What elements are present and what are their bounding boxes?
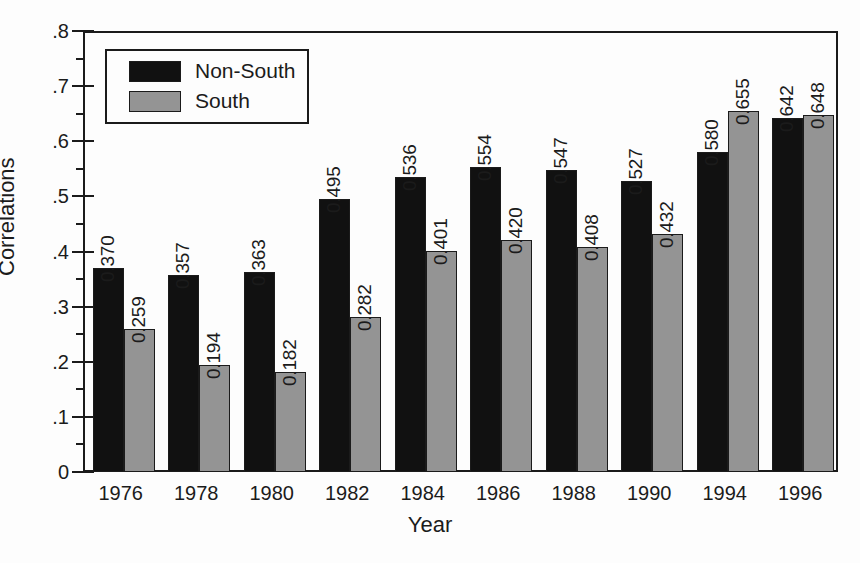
- bar-value-label: 0.432: [656, 201, 678, 248]
- bar-south-1990: [652, 234, 683, 472]
- bar-non-south-1976: [93, 268, 124, 472]
- legend-label-south: South: [195, 89, 250, 113]
- y-tick-minor: [76, 113, 83, 115]
- bar-value-label: 0.547: [550, 138, 572, 185]
- y-tick-minor: [76, 278, 83, 280]
- bar-value-label: 0.420: [505, 208, 527, 255]
- bar-value-label: 0.554: [474, 134, 496, 181]
- bar-south-1986: [501, 240, 532, 472]
- y-tick-major: [72, 361, 94, 363]
- x-tick-label-1996: 1996: [778, 482, 823, 505]
- bar-non-south-1994: [697, 152, 728, 472]
- legend: Non-South South: [105, 49, 309, 124]
- bar-value-label: 0.408: [581, 215, 603, 262]
- bar-non-south-1996: [772, 118, 803, 472]
- x-tick-label-1978: 1978: [174, 482, 219, 505]
- y-tick-minor: [76, 168, 83, 170]
- legend-item-non-south: Non-South: [129, 59, 295, 83]
- bar-south-1994: [728, 111, 759, 472]
- y-tick-major: [72, 251, 94, 253]
- y-tick-major: [72, 195, 94, 197]
- y-tick-label: .8: [52, 20, 69, 43]
- bar-value-label: 0.282: [354, 284, 376, 331]
- y-tick-minor: [76, 333, 83, 335]
- y-tick-label: .3: [52, 295, 69, 318]
- bar-chart: Correlations Year 0.1.2.3.4.5.6.7.8 0.37…: [0, 0, 860, 563]
- y-tick-major: [72, 140, 94, 142]
- x-tick-label-1976: 1976: [99, 482, 144, 505]
- y-tick-minor: [76, 58, 83, 60]
- bar-non-south-1988: [546, 170, 577, 472]
- bar-value-label: 0.363: [248, 239, 270, 286]
- y-tick-label: .1: [52, 405, 69, 428]
- bar-south-1982: [350, 317, 381, 472]
- bar-value-label: 0.655: [732, 78, 754, 125]
- x-tick-label-1990: 1990: [627, 482, 672, 505]
- y-tick-label: .5: [52, 185, 69, 208]
- bar-south-1988: [577, 247, 608, 472]
- bar-value-label: 0.527: [625, 149, 647, 196]
- bar-value-label: 0.259: [128, 297, 150, 344]
- bar-value-label: 0.401: [430, 218, 452, 265]
- bar-south-1980: [275, 372, 306, 472]
- legend-label-non-south: Non-South: [195, 59, 295, 83]
- bar-value-label: 0.536: [399, 144, 421, 191]
- y-axis-title: Correlations: [0, 157, 20, 276]
- y-tick-major: [72, 85, 94, 87]
- bar-value-label: 0.357: [172, 243, 194, 290]
- bar-value-label: 0.648: [807, 82, 829, 129]
- y-tick-label: .2: [52, 350, 69, 373]
- x-tick-label-1986: 1986: [476, 482, 521, 505]
- bar-non-south-1978: [168, 275, 199, 472]
- y-tick-minor: [76, 388, 83, 390]
- y-tick-label: .4: [52, 240, 69, 263]
- bar-south-1976: [124, 329, 155, 472]
- y-tick-major: [72, 471, 94, 473]
- x-tick-label-1984: 1984: [401, 482, 446, 505]
- bar-south-1996: [803, 115, 834, 472]
- bar-value-label: 0.580: [701, 120, 723, 167]
- y-tick-major: [72, 306, 94, 308]
- x-tick-label-1982: 1982: [325, 482, 370, 505]
- y-tick-major: [72, 416, 94, 418]
- x-axis-title: Year: [0, 512, 860, 538]
- bar-non-south-1980: [244, 272, 275, 472]
- legend-swatch-south: [129, 91, 181, 112]
- bar-non-south-1990: [621, 181, 652, 472]
- bar-south-1984: [426, 251, 457, 472]
- bar-non-south-1984: [395, 177, 426, 472]
- y-tick-label: .7: [52, 75, 69, 98]
- y-tick-label: .6: [52, 130, 69, 153]
- bar-non-south-1986: [470, 167, 501, 472]
- bar-value-label: 0.182: [279, 339, 301, 386]
- y-tick-minor: [76, 443, 83, 445]
- x-tick-label-1994: 1994: [703, 482, 748, 505]
- bar-south-1978: [199, 365, 230, 472]
- y-tick-label: 0: [58, 461, 69, 484]
- legend-item-south: South: [129, 89, 250, 113]
- bar-value-label: 0.495: [323, 167, 345, 214]
- y-tick-major: [72, 30, 94, 32]
- bar-value-label: 0.194: [203, 333, 225, 380]
- y-tick-minor: [76, 223, 83, 225]
- bar-value-label: 0.642: [776, 86, 798, 133]
- x-tick-label-1980: 1980: [250, 482, 295, 505]
- bar-value-label: 0.370: [97, 235, 119, 282]
- legend-swatch-non-south: [129, 61, 181, 82]
- x-tick-label-1988: 1988: [552, 482, 597, 505]
- bar-non-south-1982: [319, 199, 350, 472]
